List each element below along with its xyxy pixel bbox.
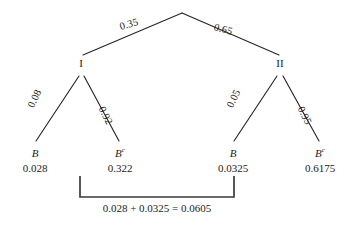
summation-bracket: [80, 176, 234, 197]
leaf-label-Bc-first: Bc: [115, 148, 125, 159]
leaf-superscript: c: [122, 146, 125, 154]
node-label-II: II: [276, 58, 283, 69]
leaf-letter: B: [315, 147, 322, 159]
leaf-letter: B: [115, 147, 122, 159]
leaf-superscript: c: [322, 146, 325, 154]
leaf-value-B-first: 0.028: [23, 163, 48, 174]
leaf-letter: B: [32, 147, 39, 159]
leaf-value-Bc-second: 0.6175: [305, 163, 335, 174]
leaf-label-Bc-second: Bc: [315, 148, 325, 159]
edge-node-I-to-leaf-B: [36, 76, 79, 141]
leaf-value-Bc-first: 0.322: [108, 163, 133, 174]
leaf-value-B-second: 0.0325: [218, 163, 248, 174]
summation-caption: 0.028 + 0.0325 = 0.0605: [103, 203, 212, 214]
edge-node-II-to-leaf-B: [234, 76, 277, 141]
node-label-I: I: [79, 58, 83, 69]
leaf-letter: B: [230, 147, 237, 159]
leaf-label-B-first: B: [32, 148, 39, 159]
leaf-label-B-second: B: [230, 148, 237, 159]
